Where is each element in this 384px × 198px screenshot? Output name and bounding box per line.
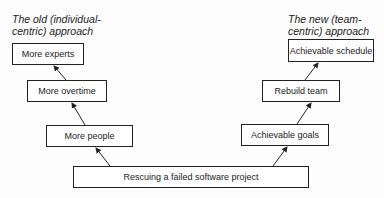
arrow-overtime-to-experts-icon [54,66,66,80]
arrow-root-to-goals-icon [273,147,287,166]
arrow-root-to-more-people-icon [96,148,110,166]
arrow-people-to-overtime-icon [72,103,85,125]
arrows-layer [0,0,384,198]
arrow-goals-to-rebuild-icon [297,103,311,124]
diagram-canvas: The old (individual- centric) approach T… [0,0,384,198]
arrow-rebuild-to-schedule-icon [305,63,318,80]
